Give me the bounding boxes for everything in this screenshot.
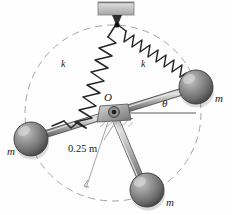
pivot-hub bbox=[97, 104, 131, 122]
mass-left-label: m bbox=[7, 146, 15, 157]
mass-left bbox=[14, 122, 49, 160]
angle-theta-label: θ bbox=[162, 98, 167, 109]
mass-right-label: m bbox=[215, 93, 223, 104]
diagram-canvas bbox=[0, 0, 232, 215]
spring-right bbox=[118, 25, 186, 82]
mass-right bbox=[179, 70, 214, 108]
mass-bottom bbox=[130, 173, 165, 211]
pivot-label: O bbox=[104, 92, 112, 103]
spring-right-stiffness-label: k bbox=[141, 59, 145, 69]
mass-bottom-label: m bbox=[166, 197, 174, 208]
radius-dimension-label: 0.25 m bbox=[68, 144, 97, 155]
ceiling-support bbox=[98, 2, 134, 15]
physics-diagram: m m m k k O θ 0.25 m bbox=[0, 0, 232, 215]
dimension-leader-lines bbox=[84, 121, 116, 188]
spring-left-stiffness-label: k bbox=[61, 59, 65, 69]
